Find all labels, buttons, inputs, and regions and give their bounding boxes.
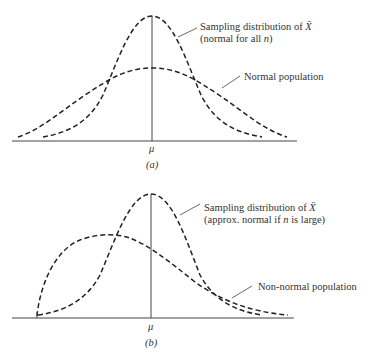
panel-a: Sampling distribution of X̄ (normal for …: [12, 16, 324, 171]
sampling-label-b-line1: Sampling distribution of X̄: [204, 202, 316, 213]
population-label-b: Non-normal population: [258, 281, 358, 292]
figure: Sampling distribution of X̄ (normal for …: [0, 0, 368, 358]
leader-population-b: [232, 286, 252, 298]
leader-sampling-b: [180, 204, 200, 215]
non-normal-population-curve: [37, 235, 288, 316]
caption-a: (a): [146, 159, 159, 171]
sampling-label-a-line2: (normal for all n): [200, 33, 273, 45]
mean-label-a: μ: [148, 143, 154, 154]
population-label-a: Normal population: [244, 71, 324, 82]
caption-b: (b): [145, 337, 158, 349]
sampling-label-a-line1: Sampling distribution of X̄: [200, 21, 312, 32]
panel-b: Sampling distribution of X̄ (approx. nor…: [12, 194, 358, 349]
leader-population-a: [222, 76, 240, 88]
leader-sampling-a: [178, 28, 197, 37]
mean-label-b: μ: [147, 321, 153, 332]
sampling-label-b-line2: (approx. normal if n is large): [204, 214, 326, 226]
